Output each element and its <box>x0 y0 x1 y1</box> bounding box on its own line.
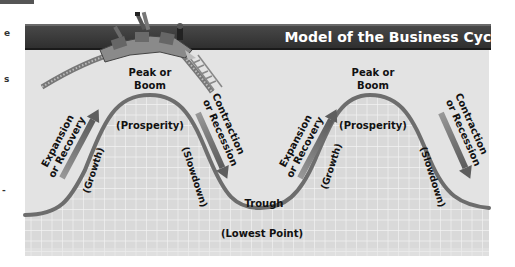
trough-label: Trough <box>245 198 284 209</box>
prosperity-label: (Prosperity) <box>339 120 407 131</box>
peak-label: Boom <box>357 80 389 91</box>
peak-label: Peak or <box>352 67 395 78</box>
business-cycle-diagram: Model of the Business Cycle <box>0 0 515 267</box>
title-bar: Model of the Business Cycle <box>25 24 506 50</box>
peak-label: Peak or <box>129 67 172 78</box>
lowest-point-label: (Lowest Point) <box>221 228 303 239</box>
peak-label: Boom <box>134 80 166 91</box>
diagram-title: Model of the Business Cycle <box>284 29 505 45</box>
prosperity-label: (Prosperity) <box>116 120 184 131</box>
